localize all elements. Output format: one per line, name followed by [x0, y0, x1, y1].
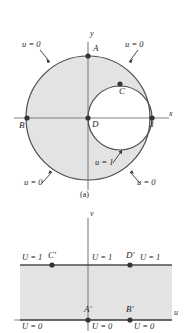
label-u0-top-right: u = 0 — [125, 40, 144, 49]
label-U1-left: U = 1 — [22, 253, 42, 262]
point-D-dot — [85, 115, 90, 120]
point-label-D: D — [92, 120, 99, 129]
point-B-dot — [24, 115, 29, 120]
point-label-C: C — [119, 87, 125, 96]
label-u0-bottom-right: u = 0 — [137, 178, 156, 187]
point-label-B: B — [19, 121, 25, 130]
point-C-prime-dot — [49, 262, 54, 267]
label-U0-right: U = 0 — [134, 322, 154, 331]
label-u1-inner: u = 1 — [95, 158, 114, 167]
leader-u0-top-right — [129, 50, 138, 62]
axis-label-u: u — [174, 309, 178, 317]
point-D-prime-dot — [127, 262, 132, 267]
leader-u0-bottom-left — [42, 172, 52, 183]
point-A-dot — [85, 53, 90, 58]
label-U1-center: U = 1 — [92, 253, 112, 262]
strip-region — [20, 265, 172, 320]
point-B-prime-dot — [127, 317, 132, 322]
label-U1-right: U = 1 — [140, 253, 160, 262]
leader-u0-top-left — [40, 50, 50, 62]
axis-label-y: y — [90, 30, 94, 38]
point-label-C-prime: C′ — [48, 251, 56, 260]
point-label-B-prime: B′ — [126, 305, 133, 314]
label-U0-left: U = 0 — [22, 322, 42, 331]
figure-caption-a: (a) — [80, 191, 89, 199]
label-U0-center: U = 0 — [92, 322, 112, 331]
point-label-A: A — [93, 44, 99, 53]
label-u0-bottom-left: u = 0 — [24, 178, 43, 187]
point-label-D-prime: D′ — [126, 251, 134, 260]
label-u0-top-left: u = 0 — [22, 40, 41, 49]
axis-label-x: x — [169, 110, 173, 118]
axis-label-v: v — [90, 210, 94, 218]
point-A-prime-dot — [85, 317, 90, 322]
point-label-one: 1 — [150, 120, 155, 129]
point-label-A-prime: A′ — [84, 305, 91, 314]
